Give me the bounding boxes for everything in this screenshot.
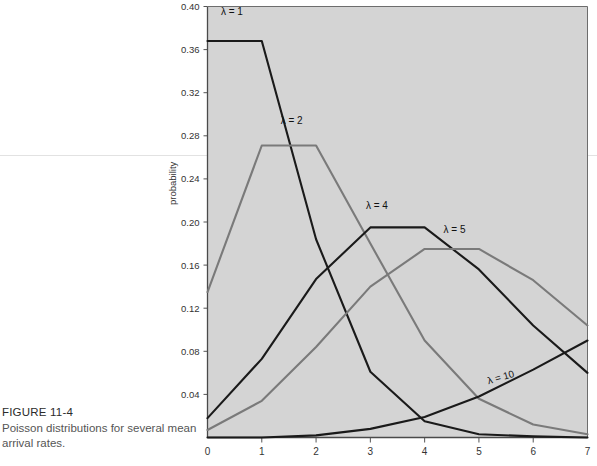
y-axis-tick-label: 0.28 <box>181 130 200 141</box>
y-axis-tick-label: 0.36 <box>181 44 200 55</box>
figure-number: FIGURE 11-4 <box>2 405 197 419</box>
plot-background <box>208 7 588 438</box>
y-axis-tick-label: 0.40 <box>181 1 200 12</box>
y-axis-tick-label: 0.20 <box>181 217 200 228</box>
series-annotation: λ = 2 <box>281 115 303 126</box>
y-axis-label: probability <box>167 162 178 205</box>
y-axis-tick-label: 0.04 <box>181 389 200 400</box>
figure-caption-text: Poisson distributions for several mean a… <box>2 421 197 450</box>
y-axis-tick-label: 0.32 <box>181 87 200 98</box>
x-axis-tick-label: 0 <box>205 446 211 457</box>
x-axis-tick-label: 7 <box>585 446 591 457</box>
x-axis-tick-label: 2 <box>313 446 319 457</box>
x-axis-tick-label: 1 <box>259 446 265 457</box>
series-annotation: λ = 4 <box>366 200 388 211</box>
y-axis-tick-label: 0.12 <box>181 303 200 314</box>
x-axis-tick-label: 6 <box>530 446 536 457</box>
figure-page: 0.040.080.120.160.200.240.280.320.360.40… <box>0 0 597 466</box>
figure-caption: FIGURE 11-4 Poisson distributions for se… <box>2 405 197 450</box>
x-axis-tick-label: 3 <box>368 446 374 457</box>
chart-container: 0.040.080.120.160.200.240.280.320.360.40… <box>0 0 597 466</box>
y-axis-tick-label: 0.24 <box>181 173 200 184</box>
x-axis-tick-label: 4 <box>422 446 428 457</box>
series-annotation: λ = 5 <box>444 224 466 235</box>
x-axis-tick-label: 5 <box>476 446 482 457</box>
y-axis-tick-label: 0.08 <box>181 346 200 357</box>
y-axis-tick-label: 0.16 <box>181 260 200 271</box>
poisson-distribution-chart: 0.040.080.120.160.200.240.280.320.360.40… <box>0 0 597 466</box>
series-annotation: λ = 1 <box>221 6 243 17</box>
